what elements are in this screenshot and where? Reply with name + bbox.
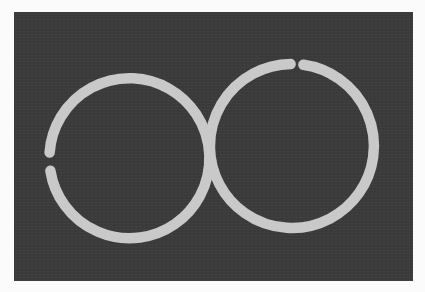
photo-frame bbox=[0, 0, 425, 292]
rings-figure bbox=[0, 0, 425, 292]
right-ring bbox=[210, 64, 374, 228]
left-ring bbox=[50, 78, 210, 238]
